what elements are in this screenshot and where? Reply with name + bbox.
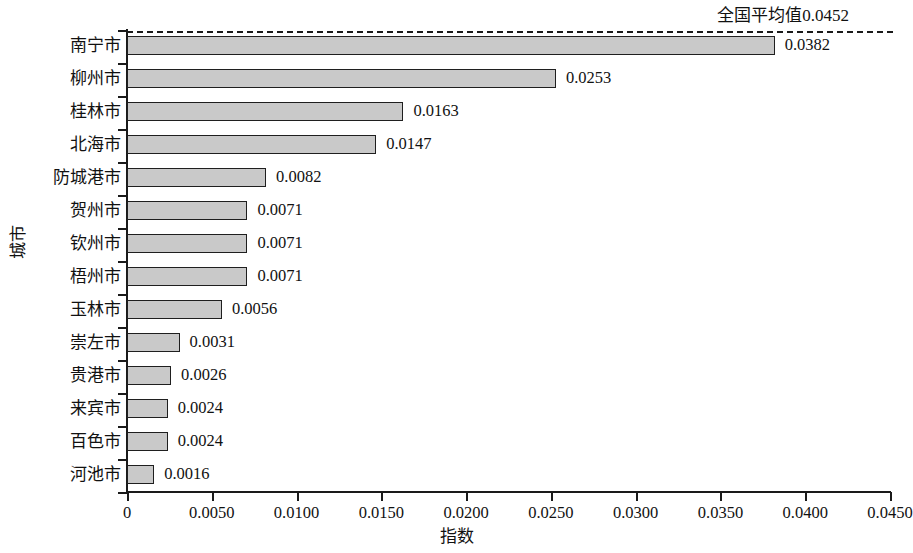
bar-row: 百色市0.0024	[127, 426, 890, 459]
y-axis-tick	[118, 129, 127, 131]
x-axis-tick	[636, 492, 638, 501]
bar-row: 玉林市0.0056	[127, 294, 890, 327]
x-axis-tick	[127, 492, 129, 501]
bar-row: 南宁市0.0382	[127, 30, 890, 63]
y-axis-tick	[118, 162, 127, 164]
bar	[127, 300, 222, 319]
bar-value-label: 0.0024	[178, 398, 223, 418]
bar-value-label: 0.0016	[164, 464, 209, 484]
x-axis-tick	[381, 492, 383, 501]
bar	[127, 135, 376, 154]
bar	[127, 102, 403, 121]
category-label: 桂林市	[3, 101, 121, 123]
category-label: 河池市	[3, 464, 121, 486]
bar	[127, 465, 154, 484]
bar-value-label: 0.0382	[785, 35, 830, 55]
bar-value-label: 0.0056	[232, 299, 277, 319]
bar	[127, 333, 180, 352]
bar	[127, 234, 247, 253]
x-axis-title: 指数	[0, 526, 913, 548]
x-axis-tick	[720, 492, 722, 501]
y-axis-tick	[118, 393, 127, 395]
bar-value-label: 0.0071	[257, 266, 302, 286]
bar-row: 桂林市0.0163	[127, 96, 890, 129]
bar-row: 防城港市0.0082	[127, 162, 890, 195]
x-axis-tick	[466, 492, 468, 501]
bar-value-label: 0.0071	[257, 233, 302, 253]
x-axis-tick	[805, 492, 807, 501]
bar-chart-figure: 全国平均值0.0452 南宁市0.0382柳州市0.0253桂林市0.0163北…	[0, 0, 913, 553]
bar	[127, 201, 247, 220]
category-label: 来宾市	[3, 398, 121, 420]
y-axis-tick	[118, 261, 127, 263]
bar-row: 贺州市0.0071	[127, 195, 890, 228]
category-label: 贵港市	[3, 365, 121, 387]
bar	[127, 399, 168, 418]
bar-row: 贵港市0.0026	[127, 360, 890, 393]
category-label: 百色市	[3, 431, 121, 453]
plot-area: 南宁市0.0382柳州市0.0253桂林市0.0163北海市0.0147防城港市…	[127, 30, 890, 492]
y-axis-tick	[118, 360, 127, 362]
category-label: 南宁市	[3, 35, 121, 57]
bar-value-label: 0.0082	[276, 167, 321, 187]
category-label: 北海市	[3, 134, 121, 156]
y-axis-tick	[118, 195, 127, 197]
national-average-annotation: 全国平均值0.0452	[688, 6, 878, 26]
bar	[127, 366, 171, 385]
x-axis-tick	[551, 492, 553, 501]
bar-value-label: 0.0253	[566, 68, 611, 88]
bar-row: 崇左市0.0031	[127, 327, 890, 360]
y-axis-tick	[118, 96, 127, 98]
bar	[127, 267, 247, 286]
category-label: 玉林市	[3, 299, 121, 321]
bar	[127, 168, 266, 187]
bar-value-label: 0.0071	[257, 200, 302, 220]
y-axis-tick	[118, 459, 127, 461]
x-axis-tick-label: 0.0450	[835, 503, 913, 523]
bar-value-label: 0.0026	[181, 365, 226, 385]
bar-row: 钦州市0.0071	[127, 228, 890, 261]
bar-value-label: 0.0031	[190, 332, 235, 352]
bar	[127, 69, 556, 88]
y-axis-tick	[118, 327, 127, 329]
category-label: 贺州市	[3, 200, 121, 222]
y-axis-tick	[118, 426, 127, 428]
bar-value-label: 0.0163	[413, 101, 458, 121]
category-label: 防城港市	[3, 167, 121, 189]
bar	[127, 432, 168, 451]
bar-row: 柳州市0.0253	[127, 63, 890, 96]
x-axis-tick	[212, 492, 214, 501]
bar-row: 梧州市0.0071	[127, 261, 890, 294]
x-axis-tick	[890, 492, 892, 501]
bar-row: 北海市0.0147	[127, 129, 890, 162]
bar-row: 河池市0.0016	[127, 459, 890, 492]
bar-value-label: 0.0024	[178, 431, 223, 451]
y-axis-tick	[118, 492, 127, 494]
category-label: 梧州市	[3, 266, 121, 288]
category-label: 崇左市	[3, 332, 121, 354]
bar-row: 来宾市0.0024	[127, 393, 890, 426]
x-axis-tick	[297, 492, 299, 501]
y-axis-tick	[118, 228, 127, 230]
y-axis-tick	[118, 63, 127, 65]
bar-value-label: 0.0147	[386, 134, 431, 154]
y-axis-title: 城市	[9, 225, 29, 259]
y-axis-tick	[118, 294, 127, 296]
y-axis-tick	[118, 30, 127, 32]
category-label: 柳州市	[3, 68, 121, 90]
bar	[127, 36, 775, 55]
